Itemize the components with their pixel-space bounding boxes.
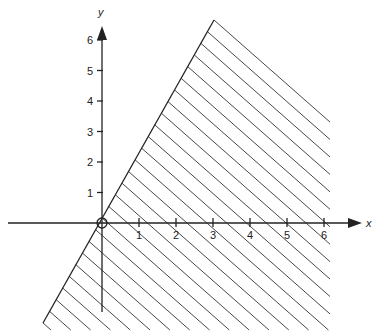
hatch-line [89, 241, 190, 330]
y-tick-label: 2 [87, 156, 93, 168]
inequality-graph: x y 123456 123456 [0, 0, 382, 336]
hatch-line [115, 195, 269, 330]
hatch-line [214, 20, 330, 122]
hatch-line [63, 288, 111, 330]
hatch-line [82, 253, 169, 330]
x-tick-label: 5 [284, 229, 290, 241]
hatch-line [56, 300, 90, 330]
hatch-line [155, 125, 330, 279]
y-tick-label: 3 [87, 126, 93, 138]
y-tick-label: 4 [87, 95, 93, 107]
y-axis-arrow-icon [97, 26, 107, 40]
hatch-line [129, 172, 309, 331]
hatch-line [207, 32, 330, 140]
hatch-line [181, 78, 330, 209]
x-tick-label: 2 [173, 229, 179, 241]
y-tick-label: 5 [87, 65, 93, 77]
x-tick-label: 3 [210, 229, 216, 241]
x-axis-arrow-icon [348, 218, 362, 228]
hatch-line [50, 311, 71, 330]
x-axis-ticks: 123456 [136, 218, 327, 241]
hatch-line [76, 265, 150, 330]
hatch-line [43, 323, 51, 330]
hatch-line [194, 55, 330, 174]
hatch-line [175, 90, 330, 227]
x-axis-label: x [365, 217, 372, 229]
hatch-line [142, 148, 330, 314]
y-axis-ticks: 123456 [87, 34, 103, 199]
x-tick-label: 4 [247, 229, 253, 241]
x-tick-label: 1 [136, 229, 142, 241]
hatch-line [69, 276, 130, 330]
y-tick-label: 6 [87, 34, 93, 46]
y-axis-label: y [97, 6, 105, 18]
hatch-line [201, 43, 330, 157]
y-tick-label: 1 [87, 187, 93, 199]
hatch-line [109, 206, 249, 330]
x-tick-label: 6 [321, 229, 327, 241]
hatch-line [148, 137, 330, 297]
hatch-line [135, 160, 328, 330]
hatch-line [122, 183, 289, 330]
